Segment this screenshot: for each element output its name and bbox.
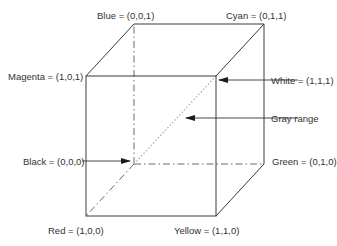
label-red: Red = (1,0,0) <box>48 226 104 236</box>
edge-black-red <box>86 164 134 216</box>
edge-green-yellow <box>216 164 264 216</box>
label-magenta: Magenta = (1,0,1) <box>8 72 83 82</box>
label-cyan: Cyan = (0,1,1) <box>226 11 286 21</box>
label-yellow: Yellow = (1,1,0) <box>174 226 239 236</box>
label-blue: Blue = (0,0,1) <box>97 11 154 21</box>
label-white: White = (1,1,1) <box>271 76 334 86</box>
gray-diagonal <box>134 76 216 164</box>
edge-blue-magenta <box>86 24 134 76</box>
arrows <box>82 80 298 161</box>
label-green: Green = (0,1,0) <box>272 157 337 167</box>
label-black: Black = (0,0,0) <box>23 157 85 167</box>
label-gray-range: Gray range <box>271 114 319 124</box>
edge-cyan-white <box>216 24 264 76</box>
